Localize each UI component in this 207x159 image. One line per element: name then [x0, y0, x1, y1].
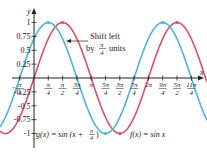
svg-text:4: 4: [190, 89, 194, 97]
shift-text-units: units: [109, 43, 126, 53]
g-function-label: g(x) = sin (x + π 4 ): [36, 128, 99, 141]
extremum-dot: [161, 21, 164, 24]
svg-text:5π: 5π: [102, 81, 110, 89]
shift-text-line1: Shift left: [90, 31, 121, 41]
svg-text:2π: 2π: [145, 81, 153, 89]
shift-frac-num: π: [100, 41, 104, 49]
extremum-dot: [104, 132, 107, 135]
svg-text:4: 4: [161, 89, 165, 97]
sine-shift-chart: y x π4−π4π23π4π5π43π27π42π9π45π211π4 10.…: [0, 0, 207, 159]
extremum-dot: [175, 21, 178, 24]
svg-text:2: 2: [118, 89, 122, 97]
x-tick-label: 2π: [145, 81, 153, 89]
x-tick-label: 9π4: [159, 81, 167, 97]
y-tick-label: 0.5: [21, 46, 31, 55]
extremum-dot: [47, 21, 50, 24]
y-tick-label: 0.75: [17, 32, 31, 41]
svg-text:5π: 5π: [173, 81, 181, 89]
svg-text:2: 2: [61, 89, 65, 97]
extremum-dot: [118, 132, 121, 135]
y-tick-label: -0.5: [18, 102, 31, 111]
shift-text-by: by: [86, 43, 95, 53]
arrow-left-icon: [66, 39, 71, 43]
f-function-label: f(x) = sin x: [130, 130, 166, 139]
x-tick-label: 3π4: [72, 81, 81, 97]
svg-text:4: 4: [47, 89, 51, 97]
svg-text:4: 4: [132, 89, 136, 97]
svg-text:9π: 9π: [159, 81, 167, 89]
x-tick-label: 3π2: [115, 81, 124, 97]
y-tick-label: -0.75: [14, 115, 31, 124]
y-tick-label: 1: [27, 18, 31, 27]
y-tick-label: 0.25: [17, 60, 31, 69]
x-tick-label: π: [89, 81, 93, 89]
svg-text:π: π: [47, 81, 51, 89]
y-axis-arrow-icon: [32, 8, 37, 14]
x-tick-label: 5π2: [173, 81, 181, 97]
svg-text:π: π: [61, 81, 65, 89]
g-frac-num: π: [90, 128, 94, 134]
svg-text:4: 4: [75, 89, 79, 97]
y-tick-label: -0.25: [14, 88, 31, 97]
extremum-dot: [61, 21, 64, 24]
x-ticks: π4−π4π23π4π5π43π27π42π9π45π211π4: [11, 76, 196, 98]
g-frac-den: 4: [90, 135, 93, 141]
g-close: ): [96, 130, 99, 139]
svg-text:7π: 7π: [131, 81, 139, 89]
x-axis-label: x: [199, 68, 204, 77]
x-tick-label: π4: [44, 81, 52, 97]
g-label-text: g(x) = sin (x +: [36, 130, 83, 139]
shift-frac-den: 4: [100, 49, 104, 57]
svg-text:4: 4: [104, 89, 108, 97]
y-axis-label: y: [26, 7, 31, 16]
svg-text:3π: 3π: [115, 81, 124, 89]
svg-text:11π: 11π: [186, 81, 196, 89]
svg-text:3π: 3π: [72, 81, 81, 89]
svg-text:2: 2: [175, 89, 179, 97]
y-tick-label: -1: [24, 129, 31, 138]
x-tick-label: π2: [59, 81, 67, 97]
x-tick-label: 5π4: [102, 81, 110, 97]
svg-text:π: π: [89, 81, 93, 89]
